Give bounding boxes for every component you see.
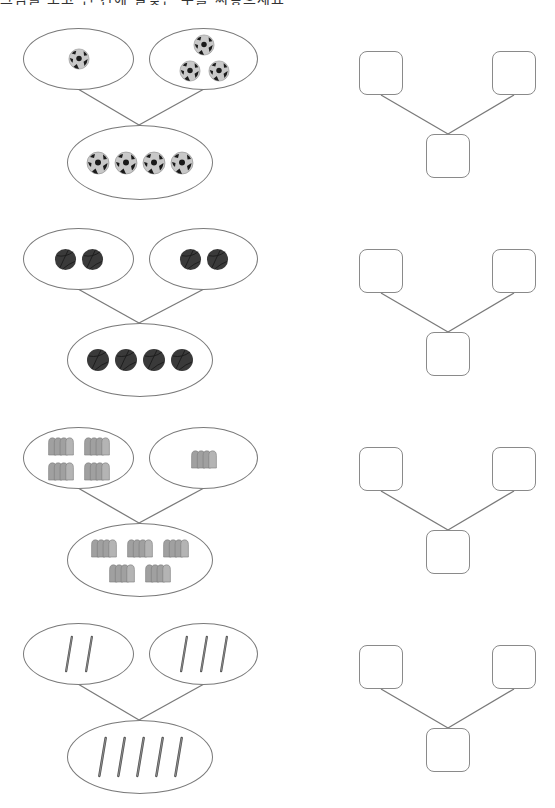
bread-loaf-icon [143,562,173,583]
bread-loaf-icon [82,460,112,481]
group-total-bread [67,523,213,597]
bread-loaf-icon [82,435,112,456]
soccer-ball-icon [114,151,138,175]
soccer-ball-icon [179,60,201,82]
group-left-bread [23,427,134,489]
soccer-ball-icon [68,48,90,70]
group-total-basketball [67,323,213,397]
answer-box-total[interactable] [426,728,470,772]
bread-loaf-icon [46,435,76,456]
pencil-icon [154,736,165,778]
pencil-icon [219,635,229,673]
bread-loaf-icon [125,537,155,558]
answer-box-total[interactable] [426,530,470,574]
answer-box-total[interactable] [426,332,470,376]
pencil-icon [135,736,146,778]
soccer-ball-icon [193,34,215,56]
soccer-ball-icon [170,151,194,175]
bread-loaf-icon [46,460,76,481]
answer-box-left[interactable] [359,447,403,491]
answer-box-right[interactable] [492,51,536,95]
basketball-icon [81,248,104,271]
connector-lines [0,0,555,808]
answer-box-right[interactable] [492,249,536,293]
answer-box-right[interactable] [492,645,536,689]
group-total-soccer [67,125,213,200]
group-total-pencil [67,720,213,794]
soccer-ball-icon [208,60,230,82]
group-right-basketball [149,228,258,290]
bread-loaf-icon [89,537,119,558]
soccer-ball-icon [142,151,166,175]
group-right-soccer [149,28,258,90]
group-right-pencil [149,623,258,685]
bread-loaf-icon [161,537,191,558]
pencil-icon [179,635,189,673]
bread-loaf-icon [189,448,219,469]
basketball-icon [86,348,110,372]
answer-box-left[interactable] [359,51,403,95]
group-left-soccer [23,28,134,90]
soccer-ball-icon [86,151,110,175]
group-right-bread [149,427,258,489]
basketball-icon [206,248,229,271]
answer-box-total[interactable] [426,134,470,178]
basketball-icon [54,248,77,271]
answer-box-left[interactable] [359,645,403,689]
basketball-icon [170,348,194,372]
pencil-icon [97,736,108,778]
pencil-icon [199,635,209,673]
pencil-icon [173,736,184,778]
pencil-icon [116,736,127,778]
pencil-icon [84,635,94,673]
basketball-icon [114,348,138,372]
basketball-icon [142,348,166,372]
group-left-basketball [23,228,134,290]
group-left-pencil [23,623,134,685]
bread-loaf-icon [107,562,137,583]
answer-box-left[interactable] [359,249,403,293]
basketball-icon [179,248,202,271]
answer-box-right[interactable] [492,447,536,491]
pencil-icon [64,635,74,673]
